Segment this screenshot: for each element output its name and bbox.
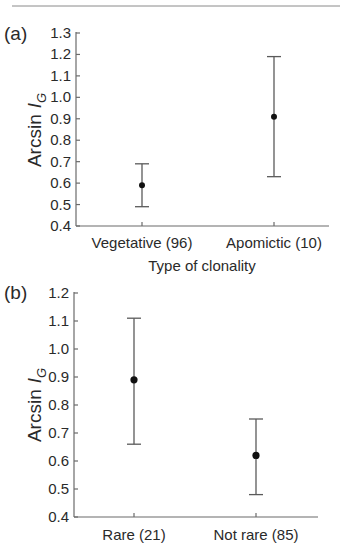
mean-point <box>130 376 137 383</box>
error-bar-group <box>267 57 281 177</box>
y-tick-label: 0.6 <box>48 452 69 469</box>
y-tick-label: 1.0 <box>50 88 71 105</box>
y-tick-label: 0.5 <box>48 480 69 497</box>
x-tick-label: Rare (21) <box>102 526 165 543</box>
x-tick-label: Not rare (85) <box>213 526 298 543</box>
panel-b-y-axis-title: ArcsinIG <box>24 368 49 442</box>
y-tick-label: 0.7 <box>50 153 71 170</box>
y-tick-label: 0.7 <box>48 424 69 441</box>
x-tick-label: Apomictic (10) <box>226 234 322 251</box>
y-tick-label: 0.9 <box>48 368 69 385</box>
mean-point <box>252 452 259 459</box>
x-tick-label: Vegetative (96) <box>92 234 193 251</box>
error-bar-group <box>135 164 149 207</box>
y-tick-label: 0.4 <box>50 217 71 234</box>
y-tick-label: 0.8 <box>50 131 71 148</box>
panel-a-y-axis-title: ArcsinIG <box>24 93 49 167</box>
panel-a-marks <box>135 57 281 207</box>
y-tick-label: 1.0 <box>48 340 69 357</box>
y-tick-label: 0.6 <box>50 174 71 191</box>
error-bar-group <box>249 419 263 495</box>
panel-b-label: (b) <box>4 282 27 303</box>
panel-b: (b) ArcsinIG 0.40.50.60.70.80.91.01.11.2… <box>4 282 318 543</box>
y-tick-label: 1.2 <box>50 45 71 62</box>
mean-point <box>271 114 277 120</box>
figure: (a) ArcsinIG 0.40.50.60.70.80.91.01.11.2… <box>0 0 340 548</box>
y-tick-label: 0.4 <box>48 508 69 525</box>
panel-a-ylabel-text: Arcsin <box>24 114 45 167</box>
y-tick-label: 1.2 <box>48 284 69 301</box>
panel-a-ylabel-subscript: G <box>34 93 49 103</box>
panel-b-marks <box>127 318 263 494</box>
panel-b-ylabel-subscript: G <box>34 368 49 378</box>
panel-a-x-axis-title: Type of clonality <box>148 257 256 274</box>
y-tick-label: 0.9 <box>50 110 71 127</box>
y-tick-label: 1.3 <box>50 24 71 41</box>
error-bar-group <box>127 318 141 444</box>
y-tick-label: 1.1 <box>48 312 69 329</box>
panel-a-label: (a) <box>4 23 27 44</box>
panel-b-ylabel-text: Arcsin <box>24 389 45 442</box>
mean-point <box>139 182 145 188</box>
y-tick-label: 0.5 <box>50 196 71 213</box>
y-tick-label: 1.1 <box>50 67 71 84</box>
y-tick-label: 0.8 <box>48 396 69 413</box>
panel-a: (a) ArcsinIG 0.40.50.60.70.80.91.01.11.2… <box>4 23 329 274</box>
